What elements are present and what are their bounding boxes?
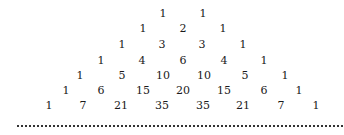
entry: 10 [156,69,170,83]
entry: 35 [155,99,169,113]
entry: 10 [197,69,211,83]
entry: 1 [63,84,70,98]
entry: 21 [114,99,128,113]
entry: 20 [176,84,190,98]
entry: 1 [282,69,289,83]
triangle-row-3: 1 3 3 1 [0,38,344,52]
triangle-row-1: 1 1 [0,7,344,21]
entry: 21 [236,99,250,113]
entry: 3 [199,38,206,52]
entry: 6 [261,84,268,98]
entry: 15 [217,84,231,98]
entry: 5 [119,69,126,83]
triangle-row-6: 1 6 15 20 15 6 1 [0,84,344,98]
entry: 1 [240,38,247,52]
triangle-row-2: 1 2 1 [0,22,344,36]
entry: 1 [98,54,105,68]
entry: 1 [160,7,167,21]
entry: 4 [139,54,146,68]
entry: 1 [46,99,53,113]
entry: 6 [98,84,105,98]
entry: 3 [159,38,166,52]
entry: 1 [77,69,84,83]
entry: 1 [119,38,126,52]
pascal-triangle: 1 1 1 2 1 1 3 3 1 1 4 6 4 1 1 5 10 10 5 … [0,0,344,135]
triangle-row-4: 1 4 6 4 1 [0,54,344,68]
entry: 1 [296,84,303,98]
entry: 5 [242,69,249,83]
entry: 1 [140,22,147,36]
entry: 35 [196,99,210,113]
triangle-row-5: 1 5 10 10 5 1 [0,69,344,83]
entry: 1 [313,99,320,113]
entry: 7 [278,99,285,113]
entry: 4 [221,54,228,68]
entry: 15 [136,84,150,98]
entry: 1 [220,22,227,36]
entry: 6 [180,54,187,68]
entry: 2 [180,22,187,36]
entry: 7 [80,99,87,113]
entry: 1 [261,54,268,68]
dotted-divider [17,125,343,127]
entry: 1 [200,7,207,21]
triangle-row-7: 1 7 21 35 35 21 7 1 [0,99,344,113]
